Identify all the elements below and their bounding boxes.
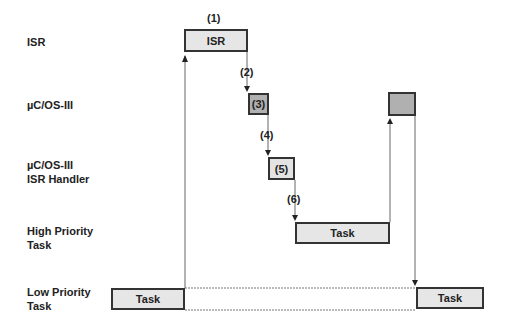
isr-box: ISR	[184, 29, 248, 52]
low-priority-task-box-left: Task	[111, 288, 185, 310]
kernel-step-3-box: (3)	[248, 93, 269, 115]
step-6-label: (6)	[287, 193, 300, 205]
step-4-label: (4)	[260, 129, 273, 141]
step-2-label: (2)	[240, 66, 253, 78]
timeline-connectors	[0, 0, 507, 329]
high-priority-task-box: Task	[295, 222, 390, 244]
step-1-label: (1)	[207, 12, 220, 24]
kernel-return-box	[388, 92, 416, 116]
isr-handler-step-5-box: (5)	[268, 157, 295, 180]
low-priority-task-box-right: Task	[416, 287, 484, 309]
